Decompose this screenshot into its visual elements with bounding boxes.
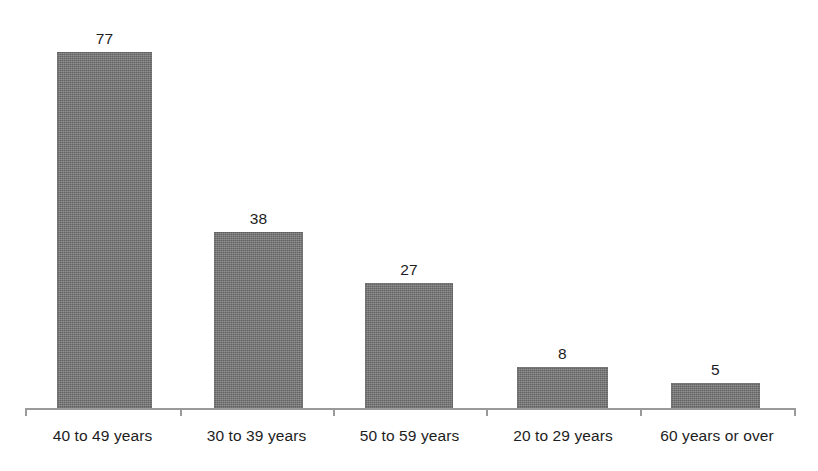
x-axis-label-2: 50 to 59 years [333, 427, 486, 445]
bar-value-3: 8 [517, 345, 608, 363]
x-axis-line [25, 408, 796, 410]
axis-tick-start [25, 408, 27, 416]
axis-tick-2 [333, 408, 335, 416]
x-axis-label-1: 30 to 39 years [180, 427, 333, 445]
bar-4 [671, 383, 760, 408]
bar-1 [214, 232, 303, 408]
axis-tick-4 [640, 408, 642, 416]
axis-tick-1 [180, 408, 182, 416]
bar-value-1: 38 [214, 210, 303, 228]
x-axis-label-0: 40 to 49 years [25, 427, 180, 445]
bar-0 [57, 52, 152, 408]
bar-value-4: 5 [671, 361, 760, 379]
bar-value-2: 27 [365, 261, 453, 279]
bar-3 [517, 367, 608, 408]
x-axis-label-4: 60 years or over [640, 427, 794, 445]
axis-tick-3 [486, 408, 488, 416]
x-axis-label-3: 20 to 29 years [486, 427, 640, 445]
bar-2 [365, 283, 453, 408]
plot-area: 77 38 27 8 5 40 to 49 years 30 to 39 yea… [0, 0, 818, 471]
axis-tick-end [794, 408, 796, 416]
bar-chart: 77 38 27 8 5 40 to 49 years 30 to 39 yea… [0, 0, 818, 471]
bar-value-0: 77 [57, 30, 152, 48]
